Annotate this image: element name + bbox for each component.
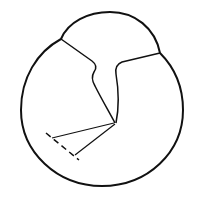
angle-line-upper: [52, 123, 114, 138]
left-inner-line: [61, 39, 115, 123]
dashed-arc-segment: [46, 133, 79, 160]
right-inner-line: [116, 53, 160, 123]
line-drawing: [0, 0, 199, 204]
angle-line-lower: [75, 124, 115, 155]
diagram-canvas: [0, 0, 199, 204]
